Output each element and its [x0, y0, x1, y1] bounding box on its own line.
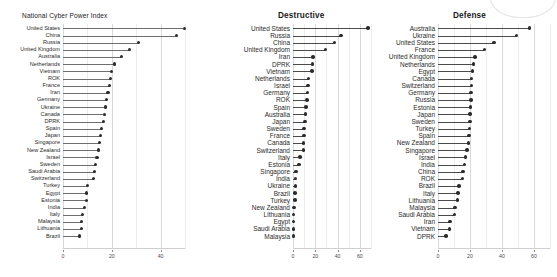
lollipop-dot[interactable]	[294, 170, 298, 174]
lollipop-dot[interactable]	[468, 120, 472, 124]
lollipop-dot[interactable]	[470, 84, 474, 88]
x-axis-line	[63, 248, 185, 249]
lollipop-dot[interactable]	[303, 120, 307, 124]
lollipop-dot[interactable]	[293, 191, 297, 195]
lollipop-dot[interactable]	[305, 98, 309, 102]
x-tick-label: 60	[357, 253, 363, 259]
lollipop-dot[interactable]	[448, 227, 452, 231]
lollipop-stem	[63, 79, 111, 80]
lollipop-dot[interactable]	[78, 234, 81, 237]
lollipop-dot[interactable]	[444, 234, 448, 238]
lollipop-dot[interactable]	[483, 48, 487, 52]
lollipop-dot[interactable]	[92, 177, 95, 180]
lollipop-dot[interactable]	[469, 105, 473, 109]
x-tick-mark	[112, 250, 113, 252]
lollipop-dot[interactable]	[333, 41, 337, 45]
lollipop-stem	[63, 215, 83, 216]
lollipop-dot[interactable]	[456, 198, 460, 202]
lollipop-dot[interactable]	[528, 26, 532, 30]
plot-area: United StatesRussiaChinaUnited KingdomIr…	[293, 24, 371, 249]
lollipop-dot[interactable]	[302, 148, 306, 152]
lollipop-dot[interactable]	[292, 227, 296, 231]
gridline	[550, 24, 551, 249]
lollipop-dot[interactable]	[464, 155, 468, 159]
lollipop-dot[interactable]	[515, 34, 519, 38]
lollipop-dot[interactable]	[470, 77, 474, 81]
lollipop-dot[interactable]	[469, 98, 473, 102]
figure-root: National Cyber Power Index United States…	[0, 0, 557, 277]
lollipop-dot[interactable]	[294, 177, 298, 181]
lollipop-stem	[63, 229, 81, 230]
lollipop-dot[interactable]	[302, 141, 306, 145]
lollipop-dot[interactable]	[120, 55, 123, 58]
lollipop-dot[interactable]	[293, 198, 297, 202]
lollipop-dot[interactable]	[306, 91, 310, 95]
lollipop-dot[interactable]	[94, 163, 97, 166]
lollipop-dot[interactable]	[93, 170, 96, 173]
lollipop-dot[interactable]	[339, 34, 343, 38]
lollipop-dot[interactable]	[97, 148, 100, 151]
lollipop-dot[interactable]	[456, 191, 460, 195]
lollipop-dot[interactable]	[448, 220, 452, 224]
lollipop-dot[interactable]	[467, 134, 471, 138]
lollipop-dot[interactable]	[292, 220, 296, 224]
lollipop-dot[interactable]	[297, 163, 301, 167]
lollipop-dot[interactable]	[102, 120, 105, 123]
lollipop-dot[interactable]	[81, 213, 84, 216]
lollipop-dot[interactable]	[298, 155, 302, 159]
lollipop-dot[interactable]	[86, 184, 89, 187]
lollipop-dot[interactable]	[137, 41, 140, 44]
lollipop-dot[interactable]	[85, 191, 88, 194]
lollipop-dot[interactable]	[463, 163, 467, 167]
lollipop-dot[interactable]	[306, 84, 310, 88]
lollipop-dot[interactable]	[453, 206, 457, 210]
lollipop-dot[interactable]	[104, 105, 107, 108]
lollipop-dot[interactable]	[457, 184, 461, 188]
lollipop-dot[interactable]	[304, 105, 308, 109]
lollipop-dot[interactable]	[83, 206, 86, 209]
lollipop-dot[interactable]	[106, 91, 109, 94]
lollipop-dot[interactable]	[128, 48, 131, 51]
lollipop-dot[interactable]	[175, 34, 178, 37]
lollipop-dot[interactable]	[469, 91, 473, 95]
lollipop-dot[interactable]	[108, 84, 111, 87]
lollipop-dot[interactable]	[109, 77, 112, 80]
lollipop-dot[interactable]	[302, 127, 306, 131]
lollipop-dot[interactable]	[468, 112, 472, 116]
lollipop-dot[interactable]	[99, 134, 102, 137]
lollipop-dot[interactable]	[453, 213, 457, 217]
lollipop-dot[interactable]	[294, 184, 298, 188]
lollipop-dot[interactable]	[80, 220, 83, 223]
lollipop-dot[interactable]	[324, 48, 328, 52]
lollipop-dot[interactable]	[105, 98, 108, 101]
lollipop-dot[interactable]	[468, 127, 472, 131]
lollipop-dot[interactable]	[473, 55, 477, 59]
lollipop-dot[interactable]	[292, 213, 296, 217]
lollipop-dot[interactable]	[103, 113, 106, 116]
lollipop-dot[interactable]	[80, 227, 83, 230]
lollipop-dot[interactable]	[465, 148, 469, 152]
lollipop-dot[interactable]	[85, 199, 88, 202]
x-axis-line	[438, 248, 550, 249]
lollipop-dot[interactable]	[307, 77, 311, 81]
lollipop-dot[interactable]	[461, 170, 465, 174]
lollipop-dot[interactable]	[311, 62, 315, 66]
lollipop-dot[interactable]	[113, 62, 116, 65]
lollipop-dot[interactable]	[110, 70, 113, 73]
lollipop-dot[interactable]	[471, 69, 475, 73]
lollipop-dot[interactable]	[98, 141, 101, 144]
lollipop-dot[interactable]	[292, 234, 296, 238]
lollipop-dot[interactable]	[310, 69, 314, 73]
lollipop-dot[interactable]	[467, 141, 471, 145]
lollipop-dot[interactable]	[461, 177, 465, 181]
lollipop-dot[interactable]	[304, 112, 308, 116]
lollipop-dot[interactable]	[95, 156, 98, 159]
lollipop-dot[interactable]	[100, 127, 103, 130]
lollipop-dot[interactable]	[311, 55, 315, 59]
lollipop-dot[interactable]	[302, 134, 306, 138]
lollipop-dot[interactable]	[292, 206, 296, 210]
lollipop-dot[interactable]	[492, 41, 496, 45]
lollipop-stem	[63, 93, 108, 94]
lollipop-dot[interactable]	[472, 62, 476, 66]
lollipop-dot[interactable]	[366, 26, 370, 30]
